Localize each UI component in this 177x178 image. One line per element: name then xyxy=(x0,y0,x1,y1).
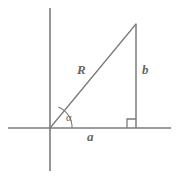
geometry-diagram: R b a α xyxy=(0,0,177,178)
hypotenuse-R-line xyxy=(50,24,136,128)
diagram-canvas xyxy=(0,0,177,178)
vertical-leg-label: b xyxy=(142,63,149,76)
hypotenuse-label: R xyxy=(77,63,86,76)
right-angle-square-marker xyxy=(127,119,136,128)
angle-label: α xyxy=(66,112,72,123)
horizontal-leg-label: a xyxy=(87,130,94,143)
